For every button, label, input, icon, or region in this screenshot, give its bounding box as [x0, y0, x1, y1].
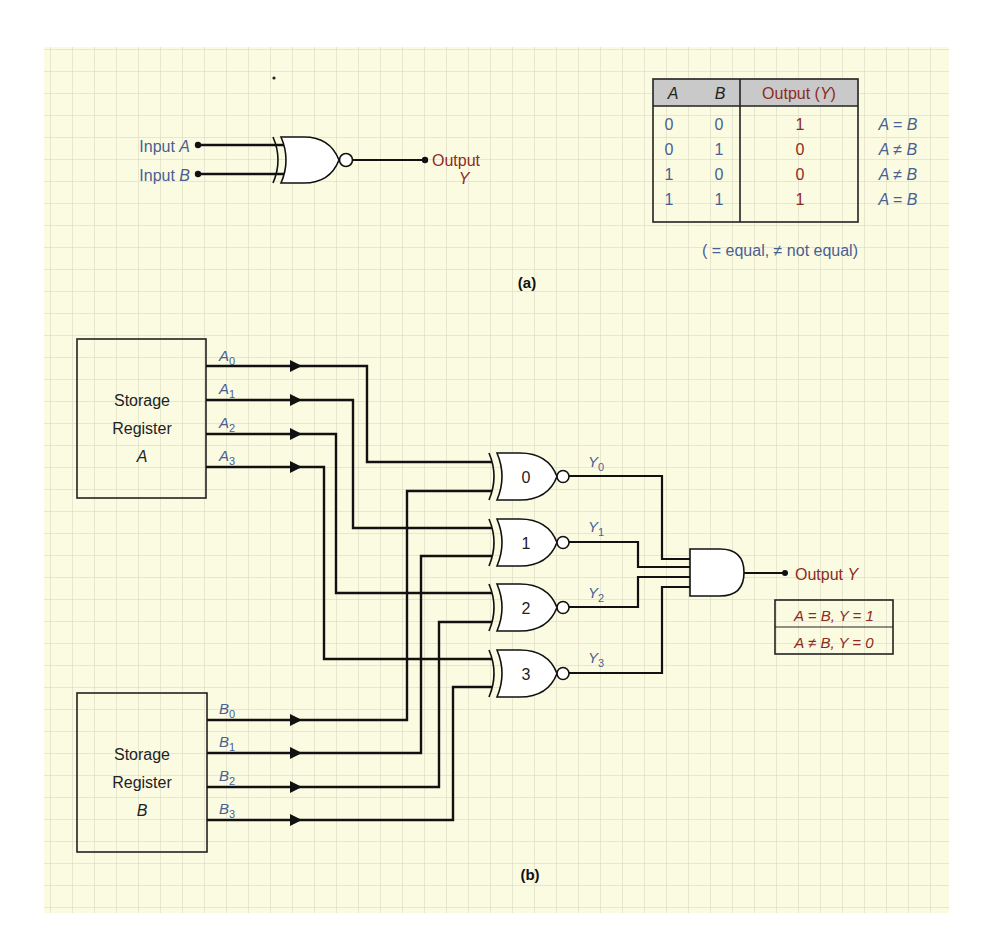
cell-y: 0 — [796, 141, 805, 158]
cell-b: 1 — [715, 191, 724, 208]
cell-y: 1 — [796, 191, 805, 208]
register-b-line2: Register — [112, 774, 172, 791]
header-a: A — [667, 85, 679, 102]
gate-2-label: 2 — [522, 600, 531, 617]
cell-b: 0 — [715, 166, 724, 183]
row-note: A ≠ B — [878, 141, 918, 158]
gate-0-label: 0 — [522, 469, 531, 486]
input-b-label: Input B — [139, 167, 190, 184]
header-output: Output (Y) — [762, 85, 836, 102]
cell-a: 0 — [665, 116, 674, 133]
header-b: B — [715, 85, 726, 102]
input-a-label: Input A — [139, 138, 190, 155]
cell-a: 0 — [665, 141, 674, 158]
stray-dot — [272, 76, 275, 79]
register-b-line1: Storage — [114, 746, 170, 763]
cell-b: 1 — [715, 141, 724, 158]
gate-1-label: 1 — [522, 535, 531, 552]
and-gate-icon — [690, 549, 744, 596]
row-note: A = B — [878, 116, 918, 133]
output-terminal — [422, 157, 428, 163]
row-note: A ≠ B — [878, 166, 918, 183]
final-output-terminal — [782, 570, 788, 576]
figure-b-caption: (b) — [520, 866, 539, 883]
register-a-line1: Storage — [114, 392, 170, 409]
diagram-canvas: Input A Input B Output Y A B Output (Y) … — [0, 0, 992, 942]
register-a-line2: Register — [112, 420, 172, 437]
output-var: Y — [459, 170, 471, 187]
cell-a: 1 — [665, 166, 674, 183]
cell-b: 0 — [715, 116, 724, 133]
final-output-label: Output Y — [795, 566, 859, 583]
result-not-equal: A ≠ B, Y = 0 — [793, 634, 874, 651]
output-label: Output — [432, 152, 481, 169]
figure-a-caption: (a) — [518, 274, 536, 291]
cell-y: 1 — [796, 116, 805, 133]
table-legend: ( = equal, ≠ not equal) — [702, 242, 858, 259]
row-note: A = B — [878, 191, 918, 208]
cell-a: 1 — [665, 191, 674, 208]
register-b-line3: B — [137, 802, 148, 819]
cell-y: 0 — [796, 166, 805, 183]
register-a-line3: A — [136, 448, 148, 465]
result-equal: A = B, Y = 1 — [793, 607, 874, 624]
gate-3-label: 3 — [522, 666, 531, 683]
